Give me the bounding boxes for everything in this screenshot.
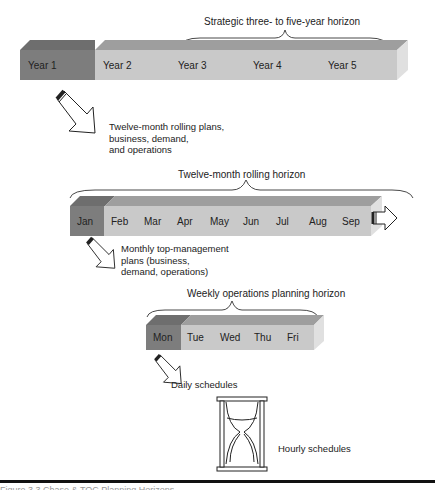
daily-schedules-text: Daily schedules: [171, 379, 238, 391]
day-cell: Wed: [214, 325, 248, 350]
day-cell: Fri: [281, 325, 314, 350]
hourglass-icon: [216, 396, 270, 472]
day-cell: Thu: [248, 325, 281, 350]
day-cell: Tue: [181, 325, 214, 350]
day-cell: Mon: [146, 325, 181, 350]
caption-rule: [0, 480, 435, 483]
days-bar: Mon Tue Wed Thu Fri: [146, 315, 326, 351]
hourly-schedules-text: Hourly schedules: [278, 443, 351, 455]
figure-caption: Figure 3.3 Chase & TOC Planning Horizons: [0, 484, 174, 490]
weekly-horizon-brace: [0, 0, 435, 330]
